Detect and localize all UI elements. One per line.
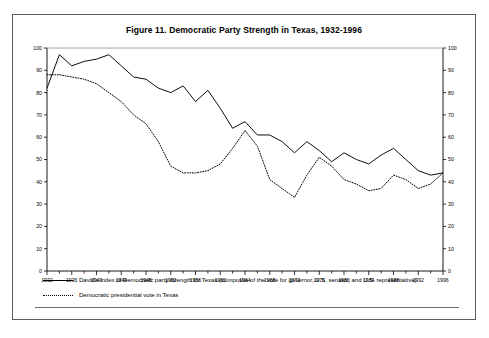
y-tick-label-left: 30: [36, 201, 42, 207]
y-tick-label-right: 70: [448, 112, 454, 118]
series-presidential-vote-line: [47, 75, 443, 198]
y-tick-label-right: 10: [448, 246, 454, 252]
y-tick-label-left: 10: [36, 246, 42, 252]
y-tick-label-left: 70: [36, 112, 42, 118]
figure-outer-frame: Figure 11. Democratic Party Strength in …: [12, 14, 476, 320]
legend-solid-line-icon: [43, 276, 73, 284]
y-tick-label-right: 90: [448, 67, 454, 73]
y-tick-label-right: 40: [448, 179, 454, 185]
y-tick-label-left: 50: [36, 156, 42, 162]
y-tick-label-left: 20: [36, 223, 42, 229]
y-tick-label-left: 100: [33, 45, 42, 51]
y-tick-label-right: 100: [448, 45, 457, 51]
y-tick-label-left: 90: [36, 67, 42, 73]
y-tick-label-right: 60: [448, 134, 454, 140]
y-tick-label-right: 30: [448, 201, 454, 207]
y-tick-label-right: 20: [448, 223, 454, 229]
legend-divider: [35, 307, 459, 308]
y-tick-label-left: 60: [36, 134, 42, 140]
legend-item-presidential-vote: Democratic presidential vote in Texas: [43, 288, 463, 301]
legend-item-davids-index: David's index of Democratic party streng…: [43, 273, 463, 286]
legend-item-label: David's index of Democratic party streng…: [79, 276, 417, 284]
y-tick-label-left: 40: [36, 179, 42, 185]
y-tick-label-right: 50: [448, 156, 454, 162]
figure-root: Figure 11. Democratic Party Strength in …: [0, 0, 489, 338]
legend-dotted-line-icon: [43, 291, 73, 299]
chart-legend: David's index of Democratic party streng…: [43, 273, 463, 303]
legend-item-label: Democratic presidential vote in Texas: [79, 291, 178, 299]
y-tick-label-left: 80: [36, 90, 42, 96]
y-tick-label-left: 0: [39, 268, 42, 274]
series-davids-index-line: [47, 55, 443, 175]
y-tick-label-right: 80: [448, 90, 454, 96]
